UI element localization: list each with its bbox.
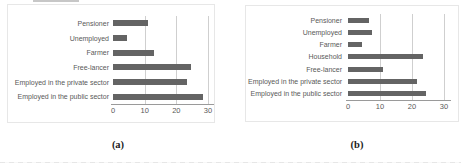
bar <box>113 20 148 26</box>
x-axis-ticks: 0102030 <box>348 103 444 113</box>
category-label: Employed in the public sector <box>248 90 342 97</box>
bar-track <box>113 75 208 90</box>
category-label: Free-lancer <box>10 64 109 71</box>
chart-b-caption: (b) <box>343 139 371 150</box>
bar <box>348 42 362 47</box>
chart-row: Unemployed <box>248 26 444 38</box>
category-label: Pensioner <box>248 17 342 24</box>
bar-track <box>348 63 444 75</box>
chart-row: Employed in the private sector <box>248 75 444 87</box>
bar <box>113 50 154 56</box>
bar <box>348 91 426 96</box>
category-label: Free-lancer <box>248 66 342 73</box>
x-axis-line <box>111 104 214 105</box>
category-label: Pensioner <box>10 20 109 27</box>
bar <box>348 18 369 23</box>
x-tick-label: 20 <box>172 107 180 115</box>
chart-row: Household <box>248 51 444 63</box>
category-label: Farmer <box>248 41 342 48</box>
gridline <box>208 16 209 104</box>
bar <box>113 35 127 41</box>
bar-track <box>113 16 208 31</box>
bar <box>348 30 372 35</box>
bar-track <box>348 26 444 38</box>
page-edge-artifact-top <box>33 0 79 2</box>
chart-b-panel: PensionerUnemployedFarmerHouseholdFree-l… <box>245 5 459 122</box>
chart-row: Employed in the public sector <box>248 88 444 100</box>
x-tick-label: 30 <box>440 103 448 111</box>
chart-row: Employed in the private sector <box>10 75 208 90</box>
chart-row: Free-lancer <box>10 60 208 75</box>
bar <box>348 79 417 84</box>
category-label: Unemployed <box>10 35 109 42</box>
chart-row: Free-lancer <box>248 63 444 75</box>
bar-track <box>348 51 444 63</box>
x-tick-label: 0 <box>111 107 115 115</box>
chart-row: Farmer <box>10 45 208 60</box>
chart-row: Farmer <box>248 39 444 51</box>
bar <box>113 64 191 70</box>
plot-rows: PensionerUnemployedFarmerHouseholdFree-l… <box>248 14 444 100</box>
chart-row: Pensioner <box>248 14 444 26</box>
bar-track <box>113 89 208 104</box>
category-label: Employed in the private sector <box>10 79 109 86</box>
category-label: Unemployed <box>248 29 342 36</box>
x-axis-line <box>346 100 451 101</box>
chart-a-panel: PensionerUnemployedFarmerFree-lancerEmpl… <box>7 4 215 123</box>
bar <box>113 94 203 100</box>
chart-row: Pensioner <box>10 16 208 31</box>
bar <box>348 54 423 59</box>
x-tick-label: 30 <box>204 107 212 115</box>
x-tick-label: 0 <box>346 103 350 111</box>
bar-track <box>348 39 444 51</box>
figure-two-bar-charts: PensionerUnemployedFarmerFree-lancerEmpl… <box>0 0 461 164</box>
page-edge-artifact-bottom <box>0 162 461 163</box>
bar-track <box>113 60 208 75</box>
bar-track <box>113 45 208 60</box>
category-label: Household <box>248 53 342 60</box>
x-tick-label: 20 <box>408 103 416 111</box>
x-axis-ticks: 0102030 <box>113 107 208 117</box>
chart-row: Unemployed <box>10 31 208 46</box>
bar-track <box>348 88 444 100</box>
category-label: Employed in the public sector <box>10 93 109 100</box>
category-label: Employed in the private sector <box>248 78 342 85</box>
bar-track <box>348 75 444 87</box>
bar <box>348 67 383 72</box>
x-tick-label: 10 <box>140 107 148 115</box>
plot-rows: PensionerUnemployedFarmerFree-lancerEmpl… <box>10 16 208 104</box>
chart-row: Employed in the public sector <box>10 89 208 104</box>
chart-a-caption: (a) <box>104 139 132 150</box>
gridline <box>444 14 445 100</box>
bar-track <box>113 31 208 46</box>
bar <box>113 79 187 85</box>
x-tick-label: 10 <box>376 103 384 111</box>
category-label: Farmer <box>10 49 109 56</box>
bar-track <box>348 14 444 26</box>
